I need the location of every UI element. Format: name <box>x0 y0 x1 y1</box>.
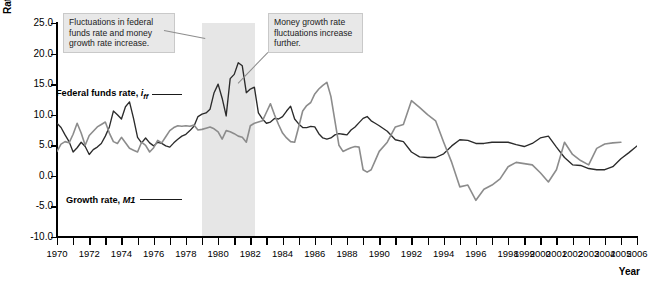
m1-symbol: M1 <box>123 195 136 205</box>
x-tick-mark <box>556 238 557 245</box>
x-tick-mark <box>186 238 187 245</box>
x-tick-label: 1974 <box>111 248 132 259</box>
x-tick-mark <box>379 238 380 245</box>
x-tick-mark <box>428 238 429 245</box>
annotation-callout-left: Fluctuations in federal funds rate and m… <box>63 13 175 53</box>
x-tick-label: 1978 <box>175 248 196 259</box>
x-tick-mark <box>138 238 139 245</box>
x-tick-label: 2006 <box>626 248 647 259</box>
x-tick-mark <box>57 238 58 245</box>
x-tick-label: 1970 <box>46 248 67 259</box>
x-tick-label: 1992 <box>401 248 422 259</box>
x-tick-mark <box>605 238 606 245</box>
x-axis-title: Year <box>619 266 640 277</box>
federal-funds-label-leader <box>152 94 182 95</box>
x-tick-mark <box>637 238 638 245</box>
x-tick-mark <box>73 238 74 245</box>
x-tick-label: 1984 <box>272 248 293 259</box>
federal-funds-rate-line <box>57 63 637 170</box>
x-tick-mark <box>283 238 284 245</box>
x-tick-mark <box>476 238 477 245</box>
x-tick-mark <box>395 238 396 245</box>
m1-series-label: Growth rate, M1 <box>66 195 135 205</box>
m1-label-text: Growth rate, <box>66 195 123 205</box>
x-tick-mark <box>621 238 622 245</box>
x-tick-label: 1988 <box>336 248 357 259</box>
x-tick-mark <box>573 238 574 245</box>
annotation-callout-right: Money growth rate fluctuations increase … <box>268 13 363 53</box>
x-tick-mark <box>105 238 106 245</box>
x-tick-label: 1982 <box>240 248 261 259</box>
x-tick-label: 1986 <box>304 248 325 259</box>
x-tick-label: 1972 <box>79 248 100 259</box>
federal-funds-label-text: Federal funds rate, <box>56 88 141 98</box>
x-tick-mark <box>492 238 493 245</box>
x-tick-mark <box>202 238 203 245</box>
x-tick-mark <box>508 238 509 245</box>
x-tick-mark <box>299 238 300 245</box>
x-tick-mark <box>411 238 412 245</box>
x-tick-mark <box>89 238 90 245</box>
x-tick-mark <box>589 238 590 245</box>
x-tick-mark <box>315 238 316 245</box>
x-tick-mark <box>121 238 122 245</box>
x-tick-label: 1976 <box>143 248 164 259</box>
federal-funds-subscript: ff <box>143 92 148 101</box>
x-tick-mark <box>460 238 461 245</box>
x-tick-label: 1980 <box>208 248 229 259</box>
x-tick-label: 1996 <box>465 248 486 259</box>
x-tick-mark <box>234 238 235 245</box>
y-tick-label: -10.0 <box>30 232 53 242</box>
series-plot-area <box>57 23 637 237</box>
x-tick-mark <box>170 238 171 245</box>
x-tick-mark <box>540 238 541 245</box>
m1-label-leader <box>140 199 182 200</box>
x-tick-mark <box>218 238 219 245</box>
y-axis-tick-labels: 25.020.015.010.05.00.0-5.0-10.0 <box>0 0 53 290</box>
x-tick-label: 1994 <box>433 248 454 259</box>
x-tick-mark <box>266 238 267 245</box>
x-tick-mark <box>363 238 364 245</box>
x-tick-mark <box>154 238 155 245</box>
x-tick-label: 1990 <box>369 248 390 259</box>
x-tick-mark <box>444 238 445 245</box>
federal-funds-series-label: Federal funds rate, iff <box>56 88 148 101</box>
x-tick-mark <box>524 238 525 245</box>
x-tick-mark <box>250 238 251 245</box>
x-tick-mark <box>347 238 348 245</box>
x-tick-mark <box>331 238 332 245</box>
